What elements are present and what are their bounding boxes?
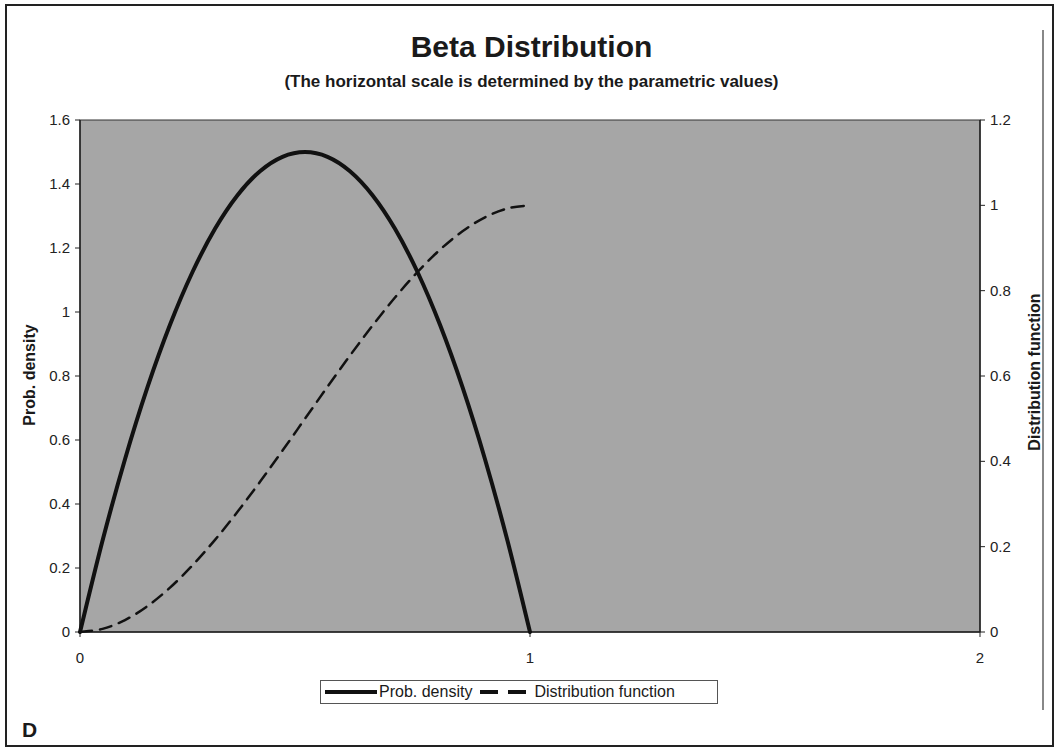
y-right-tick-label: 0.4 (990, 452, 1011, 469)
legend: Prob. density Distribution function (320, 680, 718, 704)
y-left-tick-label: 1.6 (10, 111, 70, 128)
dashed-line-swatch-icon (480, 689, 532, 695)
legend-item-distribution: Distribution function (480, 683, 675, 701)
y-left-tick-label: 0.2 (10, 559, 70, 576)
y-right-tick-label: 0.2 (990, 538, 1011, 555)
legend-item-density: Prob. density (325, 683, 472, 701)
plot-area (0, 0, 1063, 756)
y-right-tick-label: 0.8 (990, 282, 1011, 299)
panel-label: D (22, 718, 37, 742)
y-right-tick-label: 0 (990, 623, 998, 640)
y-left-tick-label: 0 (10, 623, 70, 640)
legend-label: Prob. density (379, 683, 472, 701)
legend-label: Distribution function (534, 683, 675, 701)
y-right-tick-label: 1.2 (990, 111, 1011, 128)
solid-line-swatch-icon (325, 689, 377, 695)
x-tick-label: 0 (60, 649, 100, 666)
x-tick-label: 2 (960, 649, 1000, 666)
plot-background (80, 120, 980, 632)
y-left-tick-label: 0.8 (10, 367, 70, 384)
y-axis-left-label: Prob. density (21, 324, 39, 425)
y-axis-right-label: Distribution function (1026, 293, 1044, 450)
y-left-tick-label: 0.6 (10, 431, 70, 448)
y-left-tick-label: 1.2 (10, 239, 70, 256)
y-left-tick-label: 0.4 (10, 495, 70, 512)
y-right-tick-label: 1 (990, 196, 998, 213)
y-left-tick-label: 1 (10, 303, 70, 320)
y-left-tick-label: 1.4 (10, 175, 70, 192)
x-tick-label: 1 (510, 649, 550, 666)
y-right-tick-label: 0.6 (990, 367, 1011, 384)
